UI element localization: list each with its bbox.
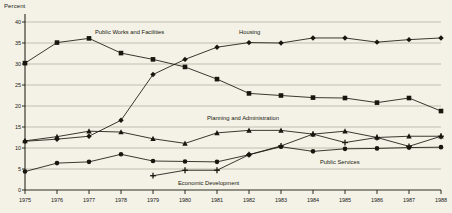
data-point-marker [247, 91, 252, 96]
series-annotation-public-works-and-facilities: Public Works and Facilities [95, 29, 164, 35]
series-housing [22, 35, 443, 144]
data-point-marker [343, 147, 348, 152]
data-point-marker [311, 95, 316, 100]
data-point-marker [150, 72, 155, 77]
data-point-marker [342, 128, 347, 133]
data-point-marker [214, 167, 220, 173]
x-axis-tick-label: 1982 [235, 197, 263, 203]
data-point-marker [150, 173, 156, 179]
x-axis-tick-label: 1978 [107, 197, 135, 203]
data-point-marker [375, 100, 380, 105]
series-economic-development [150, 131, 444, 178]
x-axis-tick-label: 1985 [331, 197, 359, 203]
data-point-marker [119, 51, 124, 56]
y-axis-tick-label: 20 [3, 103, 21, 109]
data-point-marker [87, 160, 92, 165]
data-point-marker [343, 96, 348, 101]
series-public-services [23, 144, 444, 173]
data-point-marker [215, 160, 220, 165]
data-point-marker [183, 65, 188, 70]
data-point-marker [375, 146, 380, 151]
x-axis-tick-label: 1984 [299, 197, 327, 203]
y-axis-tick-label: 30 [3, 61, 21, 67]
data-point-marker [342, 140, 348, 146]
data-point-marker [23, 169, 28, 174]
data-point-marker [278, 40, 283, 45]
x-axis-tick-label: 1983 [267, 197, 295, 203]
data-point-marker [214, 45, 219, 50]
y-axis-tick-label: 25 [3, 82, 21, 88]
series-line [25, 38, 441, 111]
y-axis-tick-label: 40 [3, 19, 21, 25]
data-point-marker [438, 35, 443, 40]
data-point-marker [407, 96, 412, 101]
series-line [25, 38, 441, 141]
data-point-marker [246, 40, 251, 45]
data-point-marker [118, 118, 123, 123]
series-annotation-housing: Housing [239, 29, 260, 35]
data-point-marker [342, 35, 347, 40]
data-point-marker [439, 109, 444, 114]
series-annotation-public-services: Public Services [320, 159, 360, 165]
y-axis-tick-label: 35 [3, 40, 21, 46]
data-point-marker [311, 149, 316, 154]
data-point-marker [55, 40, 60, 45]
data-point-marker [310, 35, 315, 40]
data-point-marker [87, 36, 92, 41]
series-annotation-planning-and-administration: Planning and Administration [207, 115, 279, 121]
x-axis-tick-label: 1981 [203, 197, 231, 203]
data-point-marker [23, 61, 28, 66]
data-point-marker [246, 152, 252, 158]
data-point-marker [151, 57, 156, 62]
x-axis-tick-label: 1979 [139, 197, 167, 203]
series-public-works-and-facilities [23, 36, 444, 113]
x-axis-tick-label: 1987 [395, 197, 423, 203]
data-point-marker [215, 77, 220, 82]
data-point-marker [279, 93, 284, 98]
data-point-marker [439, 145, 444, 150]
y-axis-tick-label: 10 [3, 145, 21, 151]
y-axis-tick-label: 15 [3, 124, 21, 130]
series-line [153, 134, 441, 176]
series-annotation-economic-development: Economic Development [178, 180, 239, 186]
data-point-marker [182, 57, 187, 62]
y-axis-tick-label: 5 [3, 166, 21, 172]
data-point-marker [183, 159, 188, 164]
series-line [25, 147, 441, 172]
x-axis-tick-label: 1988 [427, 197, 452, 203]
x-axis-tick-label: 1986 [363, 197, 391, 203]
y-axis-tick-label: 0 [3, 187, 21, 193]
data-point-marker [55, 161, 60, 166]
data-point-marker [182, 167, 188, 173]
x-axis-tick-label: 1976 [43, 197, 71, 203]
x-axis-tick-label: 1975 [11, 197, 39, 203]
data-point-marker [374, 39, 379, 44]
data-point-marker [151, 159, 156, 164]
data-point-marker [119, 152, 124, 157]
x-axis-tick-label: 1977 [75, 197, 103, 203]
x-axis-tick-label: 1980 [171, 197, 199, 203]
data-point-marker [86, 134, 91, 139]
data-point-marker [406, 37, 411, 42]
